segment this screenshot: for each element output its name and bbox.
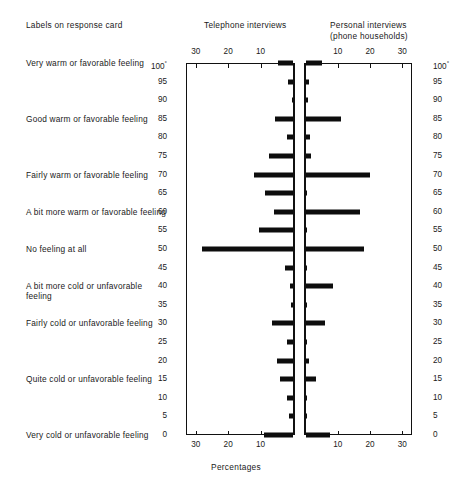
chart-container: Labels on response card Telephone interv… xyxy=(0,0,472,483)
bar-telephone-5 xyxy=(289,414,293,419)
y-tick-right-80: 80 xyxy=(433,133,459,141)
bar-personal-70 xyxy=(306,172,370,177)
bar-telephone-65 xyxy=(265,191,293,196)
y-tick-left-60: 60 xyxy=(141,208,167,216)
bar-personal-10 xyxy=(306,395,308,400)
column-header-personal: Personal interviews (phone households) xyxy=(330,20,408,42)
bar-personal-0 xyxy=(306,433,330,438)
x-tick-mark xyxy=(338,431,339,435)
axis-spine-telephone xyxy=(293,63,295,435)
y-tick-right-100: 100° xyxy=(433,59,459,71)
bar-telephone-40 xyxy=(290,284,293,289)
y-tick-right-5: 5 xyxy=(433,412,459,420)
x-tick-label-20: 20 xyxy=(217,441,239,449)
bar-personal-55 xyxy=(306,228,308,233)
y-tick-right-30: 30 xyxy=(433,319,459,327)
y-tick-right-0: 0 xyxy=(433,431,459,439)
bar-telephone-0 xyxy=(264,433,293,438)
x-tick-mark xyxy=(261,431,262,435)
x-tick-label-30: 30 xyxy=(185,48,207,56)
y-tick-right-65: 65 xyxy=(433,189,459,197)
degree-symbol: ° xyxy=(447,60,449,66)
column-header-telephone: Telephone interviews xyxy=(204,20,286,31)
bar-telephone-70 xyxy=(254,172,293,177)
y-tick-right-75: 75 xyxy=(433,152,459,160)
x-tick-label-30: 30 xyxy=(391,441,413,449)
y-tick-right-60: 60 xyxy=(433,208,459,216)
bar-personal-15 xyxy=(306,377,316,382)
y-tick-right-90: 90 xyxy=(433,96,459,104)
bar-telephone-80 xyxy=(287,135,293,140)
x-tick-mark xyxy=(228,431,229,435)
y-tick-right-70: 70 xyxy=(433,171,459,179)
x-tick-mark xyxy=(228,64,229,68)
bar-telephone-95 xyxy=(288,79,293,84)
y-tick-right-45: 45 xyxy=(433,264,459,272)
x-tick-label-20: 20 xyxy=(359,48,381,56)
y-tick-left-65: 65 xyxy=(141,189,167,197)
y-tick-left-95: 95 xyxy=(141,78,167,86)
bar-personal-50 xyxy=(306,247,364,252)
y-tick-left-55: 55 xyxy=(141,226,167,234)
y-tick-right-55: 55 xyxy=(433,226,459,234)
x-tick-mark xyxy=(338,64,339,68)
bar-personal-75 xyxy=(306,154,311,159)
bar-telephone-45 xyxy=(285,265,293,270)
bar-telephone-10 xyxy=(287,395,293,400)
y-tick-right-25: 25 xyxy=(433,338,459,346)
bar-personal-5 xyxy=(306,414,308,419)
y-tick-right-40: 40 xyxy=(433,282,459,290)
y-tick-left-80: 80 xyxy=(141,133,167,141)
bar-telephone-100 xyxy=(278,61,293,66)
bar-personal-95 xyxy=(306,79,310,84)
x-tick-mark xyxy=(261,64,262,68)
bar-telephone-30 xyxy=(272,321,293,326)
y-tick-left-10: 10 xyxy=(141,394,167,402)
y-tick-right-10: 10 xyxy=(433,394,459,402)
bar-personal-80 xyxy=(306,135,311,140)
x-tick-label-10: 10 xyxy=(327,48,349,56)
y-tick-left-85: 85 xyxy=(141,115,167,123)
bar-personal-45 xyxy=(306,265,308,270)
y-tick-right-15: 15 xyxy=(433,375,459,383)
bar-personal-30 xyxy=(306,321,325,326)
y-tick-left-40: 40 xyxy=(141,282,167,290)
x-tick-label-10: 10 xyxy=(250,441,272,449)
y-tick-right-35: 35 xyxy=(433,301,459,309)
bar-telephone-90 xyxy=(292,98,294,103)
y-tick-left-20: 20 xyxy=(141,357,167,365)
x-tick-mark xyxy=(370,64,371,68)
bar-telephone-35 xyxy=(291,302,293,307)
y-tick-left-35: 35 xyxy=(141,301,167,309)
bar-personal-20 xyxy=(306,358,310,363)
bar-personal-65 xyxy=(306,191,308,196)
y-tick-left-75: 75 xyxy=(141,152,167,160)
y-tick-left-25: 25 xyxy=(141,338,167,346)
y-tick-right-20: 20 xyxy=(433,357,459,365)
y-tick-left-45: 45 xyxy=(141,264,167,272)
y-tick-left-5: 5 xyxy=(141,412,167,420)
x-tick-mark xyxy=(370,431,371,435)
bar-telephone-25 xyxy=(287,340,293,345)
x-tick-mark xyxy=(402,64,403,68)
bar-personal-60 xyxy=(306,209,361,214)
y-tick-right-85: 85 xyxy=(433,115,459,123)
bar-personal-40 xyxy=(306,284,333,289)
x-tick-mark xyxy=(196,431,197,435)
bar-telephone-85 xyxy=(275,116,293,121)
personal-header-line1: Personal interviews xyxy=(330,20,408,31)
x-tick-label-10: 10 xyxy=(250,48,272,56)
bar-telephone-15 xyxy=(280,377,293,382)
x-tick-label-30: 30 xyxy=(185,441,207,449)
x-axis-caption: Percentages xyxy=(0,462,472,472)
x-tick-label-10: 10 xyxy=(327,441,349,449)
y-tick-left-30: 30 xyxy=(141,319,167,327)
bar-telephone-60 xyxy=(274,209,293,214)
bar-personal-90 xyxy=(306,98,309,103)
x-tick-mark xyxy=(196,64,197,68)
bar-personal-25 xyxy=(306,340,308,345)
bar-personal-100 xyxy=(306,61,322,66)
column-header-labels: Labels on response card xyxy=(26,20,123,31)
bar-telephone-50 xyxy=(202,247,293,252)
y-tick-left-0: 0 xyxy=(141,431,167,439)
